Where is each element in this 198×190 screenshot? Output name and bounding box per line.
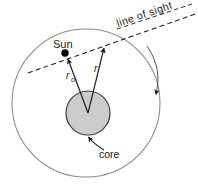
line-of-sight-label: line of sight	[115, 0, 174, 29]
r0-label: r	[66, 70, 70, 81]
sun-core-diagram-svg: Sun core r r o line of sight	[0, 0, 198, 190]
core-label: core	[99, 148, 120, 160]
sun-label: Sun	[53, 38, 73, 50]
r0-label-subscript: o	[71, 76, 75, 83]
r0-label-group: r o	[66, 70, 75, 83]
diagram-canvas: Sun core r r o line of sight	[0, 0, 198, 190]
r-label: r	[94, 63, 98, 74]
sun-dot	[61, 49, 68, 56]
